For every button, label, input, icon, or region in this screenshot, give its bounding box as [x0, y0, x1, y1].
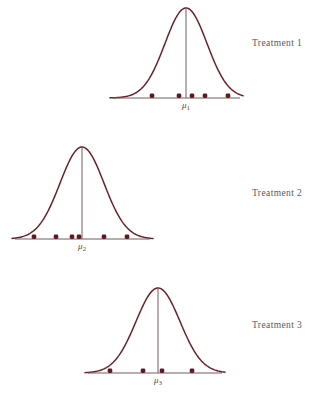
- panel-treatment-2: Treatment 2 μ2: [0, 130, 319, 265]
- mu-2-label: μ2: [78, 241, 86, 251]
- treatment-2-label: Treatment 2: [252, 188, 302, 198]
- bell-curve-path: [110, 8, 243, 98]
- observation-dot: [77, 235, 82, 239]
- observation-dot: [226, 94, 231, 98]
- observation-dot: [32, 235, 37, 239]
- mu-3-label: μ3: [154, 375, 162, 385]
- observation-dot: [141, 369, 146, 373]
- mu-1-label: μ1: [182, 100, 190, 110]
- observation-dot: [177, 94, 182, 98]
- observation-dot: [108, 369, 113, 373]
- observation-dot: [160, 369, 165, 373]
- observation-dot: [150, 94, 155, 98]
- observation-dot: [125, 235, 130, 239]
- observation-dot: [102, 235, 107, 239]
- panel-treatment-3: Treatment 3 μ3: [0, 265, 319, 400]
- observation-dot: [203, 94, 208, 98]
- observation-dot: [190, 369, 195, 373]
- observation-dot: [190, 94, 195, 98]
- treatment-3-label: Treatment 3: [252, 320, 302, 330]
- panel-treatment-1: Treatment 1 μ1: [0, 0, 319, 130]
- treatment-1-label: Treatment 1: [252, 38, 302, 48]
- treatment-distributions-figure: Treatment 1 μ1 Treatment 2 μ2 Treatment …: [0, 0, 319, 400]
- bell-curve-path: [85, 288, 225, 373]
- observation-dot: [70, 235, 75, 239]
- observation-dot: [54, 235, 59, 239]
- distribution-curve-1: [0, 0, 319, 130]
